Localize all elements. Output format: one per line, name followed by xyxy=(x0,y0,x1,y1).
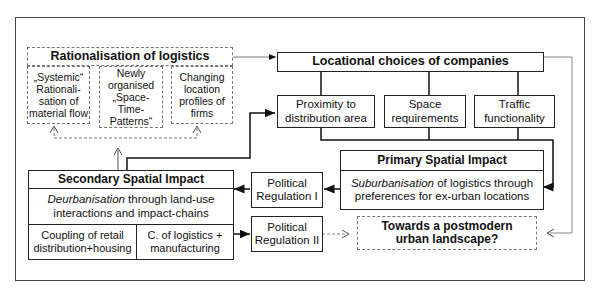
secondary-impact-title: Secondary Spatial Impact xyxy=(29,171,233,189)
rationalisation-item-location-profiles: Changing location profiles of firms xyxy=(171,66,233,124)
factor-space: Space requirements xyxy=(384,95,466,128)
factor-proximity: Proximity to distribution area xyxy=(277,95,375,128)
factor-traffic: Traffic functionality xyxy=(474,95,555,128)
coupling-logistics-manufacturing: C. of logistics + manufacturing xyxy=(137,225,233,259)
postmodern-landscape-box: Towards a postmodern urban landscape? xyxy=(357,216,537,250)
primary-impact-box: Primary Spatial Impact Suburbanisation o… xyxy=(340,150,544,210)
rationalisation-title: Rationalisation of logistics xyxy=(27,47,233,66)
political-regulation-2: Political Regulation II xyxy=(251,216,323,252)
secondary-impact-description: Deurbanisation through land-use interact… xyxy=(29,189,233,225)
rationalisation-item-systemic: „Systemic“ Rationali- sation of material… xyxy=(27,66,90,124)
political-regulation-1: Political Regulation I xyxy=(251,172,323,208)
locational-choices-box: Locational choices of companies xyxy=(277,52,544,72)
secondary-impact-box: Secondary Spatial Impact Deurbanisation … xyxy=(28,170,234,260)
coupling-retail-housing: Coupling of retail distribution+housing xyxy=(29,225,137,259)
primary-impact-title: Primary Spatial Impact xyxy=(341,151,543,171)
rationalisation-title-text: Rationalisation of logistics xyxy=(50,50,209,64)
primary-impact-description: Suburbanisation of logistics through pre… xyxy=(341,171,543,209)
rationalisation-item-space-time: Newly organised „Space-Time- Patterns“ xyxy=(99,66,163,128)
